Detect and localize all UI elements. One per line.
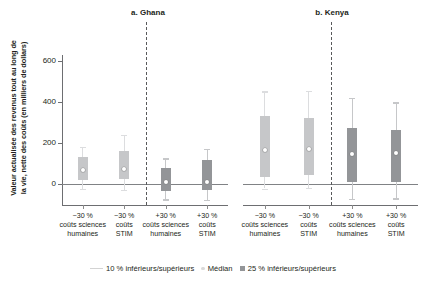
y-axis-tick-label: 600 [20,56,56,65]
whisker-cap-upper-kenya-0 [262,91,268,92]
median-dot-icon [201,267,204,270]
box-square-icon [240,266,245,271]
median-marker-ghana-0 [81,168,85,172]
x-axis-tick-kenya-2 [352,205,353,209]
box-kenya-3 [391,130,401,182]
y-axis-tick-label: 0 [20,179,56,188]
x-axis-label-line: +30 % [370,212,422,221]
x-axis-line-ghana [62,205,228,206]
legend-item-median: Médian [201,264,232,273]
y-axis-tick [58,143,62,144]
median-marker-kenya-0 [263,148,267,152]
x-axis-label-line: coûts [183,221,233,230]
x-axis-tick-ghana-2 [166,205,167,209]
box-kenya-0 [260,116,270,176]
whisker-cap-upper-ghana-1 [121,135,127,136]
legend-label-box: 25 % inférieurs/supérieurs [248,264,336,273]
chart-legend: 10 % inférieurs/supérieurs Médian 25 % i… [0,264,426,273]
x-axis-label-line: +30 % [183,212,233,221]
x-axis-label-kenya-3: +30 %coûtsSTIM [370,212,422,240]
whisker-cap-lower-kenya-2 [349,199,355,200]
whisker-cap-upper-ghana-0 [80,147,86,148]
whisker-cap-upper-kenya-2 [349,98,355,99]
median-marker-kenya-1 [307,147,311,151]
legend-label-median: Médian [208,264,233,273]
figure-canvas: Valeur actualisée des revenus tout au lo… [0,0,426,283]
whisker-cap-lower-kenya-0 [262,189,268,190]
group-divider-kenya [331,22,332,205]
whisker-cap-lower-ghana-3 [204,200,210,201]
x-axis-tick-kenya-0 [265,205,266,209]
y-axis-line [62,55,63,205]
group-divider-ghana [146,22,147,205]
panel-title-kenya: b. Kenya [272,8,392,17]
whisker-cap-upper-kenya-3 [393,102,399,103]
x-axis-tick-ghana-3 [207,205,208,209]
x-axis-label-line: STIM [370,230,422,239]
y-axis-label-line1: Valeur actualisée des revenus tout au lo… [9,40,18,196]
legend-item-box: 25 % inférieurs/supérieurs [240,264,336,273]
x-axis-tick-kenya-3 [396,205,397,209]
box-ghana-1 [119,151,129,180]
panel-title-ghana: a. Ghana [88,8,208,17]
x-axis-label-ghana-3: +30 %coûtsSTIM [183,212,233,240]
legend-label-whisker: 10 % inférieurs/supérieurs [106,264,194,273]
whisker-line-icon [90,268,103,269]
whisker-cap-lower-ghana-2 [163,199,169,200]
whisker-cap-lower-ghana-1 [121,190,127,191]
x-axis-tick-ghana-0 [83,205,84,209]
legend-item-whisker: 10 % inférieurs/supérieurs [90,264,194,273]
whisker-cap-lower-kenya-3 [393,198,399,199]
whisker-cap-upper-kenya-1 [306,91,312,92]
box-ghana-3 [202,160,212,190]
whisker-cap-lower-kenya-1 [306,188,312,189]
whisker-cap-upper-ghana-2 [163,158,169,159]
y-axis-tick [58,61,62,62]
x-axis-label-line: coûts [370,221,422,230]
median-marker-ghana-3 [205,180,209,184]
x-axis-line-kenya [243,205,418,206]
whisker-cap-upper-ghana-3 [204,149,210,150]
x-axis-tick-kenya-1 [309,205,310,209]
y-axis-tick-label: 200 [20,138,56,147]
y-axis-tick [58,102,62,103]
whisker-cap-lower-ghana-0 [80,189,86,190]
x-axis-label-line: STIM [183,230,233,239]
box-ghana-2 [161,168,171,191]
median-marker-kenya-3 [394,151,398,155]
y-axis-tick-label: 400 [20,97,56,106]
x-axis-tick-ghana-1 [124,205,125,209]
